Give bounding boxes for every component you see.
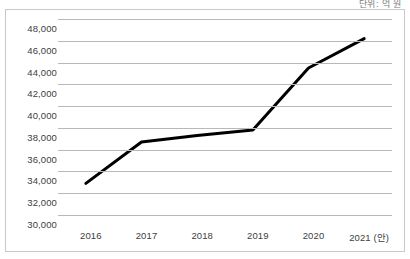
x-axis-tick-label: 2016 xyxy=(80,230,102,241)
x-axis-tick-label: 2019 xyxy=(247,230,269,241)
gridline xyxy=(58,41,392,42)
gridline xyxy=(58,84,392,85)
gridline xyxy=(58,171,392,172)
gridline xyxy=(58,215,392,216)
gridline xyxy=(58,19,392,20)
y-axis-tick-label: 46,000 xyxy=(27,44,57,55)
y-axis: 48,00046,00044,00042,00040,00038,00036,0… xyxy=(5,9,57,252)
gridline xyxy=(58,128,392,129)
x-axis-tick-label: 2021 (안) xyxy=(349,230,389,244)
y-axis-tick-label: 42,000 xyxy=(27,88,57,99)
gridline xyxy=(58,150,392,151)
y-axis-tick-label: 30,000 xyxy=(27,219,57,230)
y-axis-tick-label: 48,000 xyxy=(27,23,57,34)
x-axis-tick-label: 2017 xyxy=(136,230,158,241)
x-axis-tick-label: 2020 xyxy=(303,230,325,241)
y-axis-tick-label: 44,000 xyxy=(27,66,57,77)
y-axis-tick-label: 38,000 xyxy=(27,131,57,142)
chart-figure: 단위: 억 원 48,00046,00044,00042,00040,00038… xyxy=(0,0,410,259)
plot-area xyxy=(58,19,392,215)
gridline xyxy=(58,106,392,107)
gridline xyxy=(58,63,392,64)
x-axis: 201620172018201920202021 (안) xyxy=(63,230,397,246)
line-series-path xyxy=(86,39,364,184)
y-axis-tick-label: 34,000 xyxy=(27,175,57,186)
x-axis-tick-label: 2018 xyxy=(191,230,213,241)
y-axis-tick-label: 32,000 xyxy=(27,197,57,208)
chart-unit-caption: 단위: 억 원 xyxy=(0,0,410,9)
chart-unit-caption-text: 단위: 억 원 xyxy=(359,0,402,9)
line-series-svg xyxy=(58,19,392,215)
gridline xyxy=(58,193,392,194)
y-axis-tick-label: 40,000 xyxy=(27,110,57,121)
y-axis-tick-label: 36,000 xyxy=(27,153,57,164)
